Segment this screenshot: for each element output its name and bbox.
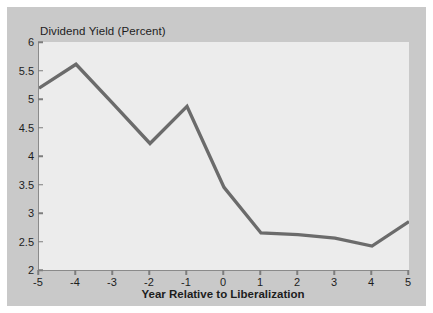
y-axis-tick-label: 3 — [0, 207, 34, 219]
y-axis-tick-mark — [38, 98, 43, 100]
y-axis-tick-label: 5 — [0, 93, 34, 105]
x-axis-tick-label: -3 — [107, 276, 117, 288]
y-axis-tick-mark — [38, 155, 43, 157]
x-axis-tick-mark — [407, 270, 409, 275]
y-axis-tick-mark — [38, 41, 43, 43]
y-axis-tick-label: 2 — [0, 264, 34, 276]
x-axis-tick-mark — [37, 270, 39, 275]
x-axis-tick-mark — [222, 270, 224, 275]
x-axis-tick-label: 0 — [220, 276, 226, 288]
y-axis-tick-mark — [38, 212, 43, 214]
y-axis-tick-mark — [38, 241, 43, 243]
y-axis-tick-label: 5.5 — [0, 65, 34, 77]
y-axis-tick-mark — [38, 269, 43, 271]
y-axis-tick-label: 2.5 — [0, 236, 34, 248]
x-axis-tick-label: -4 — [70, 276, 80, 288]
x-axis-tick-mark — [148, 270, 150, 275]
y-axis-tick-mark — [38, 70, 43, 72]
x-axis-tick-mark — [296, 270, 298, 275]
line-series-dividend-yield — [39, 42, 409, 270]
x-axis-tick-mark — [74, 270, 76, 275]
x-axis-tick-label: 4 — [368, 276, 374, 288]
x-axis-tick-label: 2 — [294, 276, 300, 288]
x-axis-tick-label: -2 — [144, 276, 154, 288]
y-axis-tick-label: 6 — [0, 36, 34, 48]
x-axis-tick-label: -5 — [33, 276, 43, 288]
y-axis-tick-mark — [38, 184, 43, 186]
y-axis-tick-label: 3.5 — [0, 179, 34, 191]
x-axis-tick-mark — [111, 270, 113, 275]
x-axis-tick-label: 3 — [331, 276, 337, 288]
chart-title: Dividend Yield (Percent) — [40, 25, 166, 37]
y-axis-tick-label: 4 — [0, 150, 34, 162]
x-axis-tick-label: -1 — [181, 276, 191, 288]
x-axis-tick-mark — [185, 270, 187, 275]
x-axis-label: Year Relative to Liberalization — [38, 288, 408, 300]
y-axis-tick-mark — [38, 127, 43, 129]
x-axis-tick-mark — [259, 270, 261, 275]
y-axis-tick-labels: 22.533.544.555.56 — [0, 42, 34, 270]
x-axis-tick-label: 1 — [257, 276, 263, 288]
y-axis-tick-label: 4.5 — [0, 122, 34, 134]
plot-area — [38, 42, 409, 271]
chart-figure: Dividend Yield (Percent) 22.533.544.555.… — [0, 0, 433, 313]
x-axis-tick-mark — [370, 270, 372, 275]
x-axis-tick-label: 5 — [405, 276, 411, 288]
x-axis-tick-mark — [333, 270, 335, 275]
